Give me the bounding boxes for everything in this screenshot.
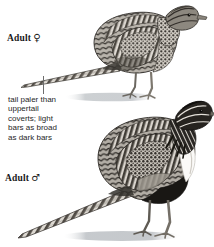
annotation-line: coverts; light bbox=[8, 114, 74, 123]
male-tail-shading bbox=[40, 190, 131, 230]
male-eye-highlight bbox=[201, 110, 202, 111]
male-eye bbox=[199, 109, 202, 112]
annotation-line: tail paler than bbox=[8, 95, 74, 104]
adult-female-label-text: Adult bbox=[7, 33, 31, 43]
male-tail bbox=[18, 188, 132, 238]
male-leg-far bbox=[144, 200, 150, 231]
female-bill bbox=[197, 15, 207, 20]
female-symbol: ♀ bbox=[31, 32, 41, 43]
annotation-leader-line bbox=[43, 76, 44, 94]
adult-female-label: Adult♀ bbox=[7, 32, 41, 43]
adult-male-label-text: Adult bbox=[5, 173, 29, 183]
male-head bbox=[175, 101, 212, 130]
field-guide-plate: Adult female pheasant in left-facing pro… bbox=[0, 0, 214, 247]
female-eye bbox=[188, 14, 191, 17]
male-ground-shadow bbox=[62, 231, 182, 241]
male-bill bbox=[210, 111, 214, 116]
female-leg-far bbox=[131, 72, 136, 94]
female-leg-near bbox=[149, 72, 152, 95]
female-eye-highlight bbox=[189, 14, 190, 15]
male-leg-near bbox=[166, 200, 170, 233]
adult-male-label: Adult♂ bbox=[5, 172, 40, 183]
female-pheasant-illustration: Adult female pheasant in left-facing pro… bbox=[8, 0, 208, 108]
annotation-line: as dark bars bbox=[8, 133, 74, 142]
annotation-line: bars as broad bbox=[8, 123, 74, 132]
male-symbol: ♂ bbox=[29, 172, 40, 183]
tail-annotation: tail paler than uppertail coverts; light… bbox=[8, 95, 74, 142]
annotation-line: uppertail bbox=[8, 104, 74, 113]
